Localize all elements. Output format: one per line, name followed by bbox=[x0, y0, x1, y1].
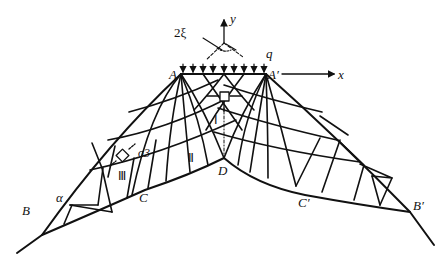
load-arrows bbox=[183, 64, 264, 72]
point-a-prime-label: A′ bbox=[268, 68, 279, 81]
slip-line-diagram: 2ξ y x q A A′ D B C C′ B′ α σ3 Ⅰ Ⅱ Ⅲ bbox=[0, 0, 448, 256]
angle-2xi-indicator bbox=[203, 38, 243, 60]
lower-boundary-left bbox=[42, 158, 224, 235]
x-axis-label: x bbox=[338, 68, 344, 81]
zone-3-mesh-right bbox=[296, 116, 392, 205]
point-c-label: C bbox=[139, 191, 148, 204]
zone-3-label: Ⅲ bbox=[118, 170, 126, 182]
zone-1-label: Ⅰ bbox=[214, 114, 218, 126]
point-b-prime-label: B′ bbox=[413, 199, 424, 212]
y-axis-label: y bbox=[230, 12, 236, 25]
zone-2-label: Ⅱ bbox=[188, 152, 194, 164]
sigma3-label: σ3 bbox=[138, 147, 150, 159]
angle-alpha-label: α bbox=[56, 191, 63, 204]
outer-boundary-left bbox=[17, 74, 181, 253]
outer-boundary-right bbox=[266, 74, 434, 245]
point-b-label: B bbox=[22, 204, 30, 217]
load-q-label: q bbox=[266, 47, 273, 60]
angle-2xi-label: 2ξ bbox=[174, 26, 186, 39]
point-c-prime-label: C′ bbox=[298, 196, 310, 209]
slip-line-field-svg bbox=[0, 0, 448, 256]
point-d-label: D bbox=[218, 164, 227, 177]
stress-element-zone-1 bbox=[207, 92, 242, 112]
point-a-label: A bbox=[169, 68, 177, 81]
